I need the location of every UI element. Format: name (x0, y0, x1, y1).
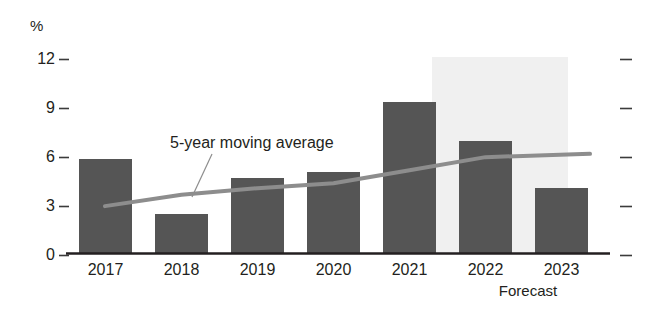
x-tick-label-2021: 2021 (392, 261, 428, 278)
bar-chart-svg: % 036912 5-year moving average 201720182… (0, 0, 660, 318)
chart-container: % 036912 5-year moving average 201720182… (0, 0, 660, 318)
x-tick-label-2022: 2022 (468, 261, 504, 278)
y-tick-label: 3 (46, 197, 55, 214)
bar-2021 (383, 102, 436, 254)
y-tick-label: 6 (46, 148, 55, 165)
x-tick-label-2018: 2018 (164, 261, 200, 278)
y-tick-label: 0 (46, 246, 55, 263)
x-tick-label-2020: 2020 (316, 261, 352, 278)
x-tick-label-2023: 2023 (544, 261, 580, 278)
forecast-caption: Forecast (499, 282, 558, 299)
x-tick-label-2019: 2019 (240, 261, 276, 278)
y-tick-label: 12 (37, 50, 55, 67)
y-axis-unit-label: % (30, 17, 43, 34)
bar-2023 (535, 188, 588, 253)
x-tick-label-2017: 2017 (88, 261, 124, 278)
y-tick-label: 9 (46, 99, 55, 116)
bar-2018 (155, 214, 208, 253)
moving-average-annotation: 5-year moving average (170, 134, 334, 151)
